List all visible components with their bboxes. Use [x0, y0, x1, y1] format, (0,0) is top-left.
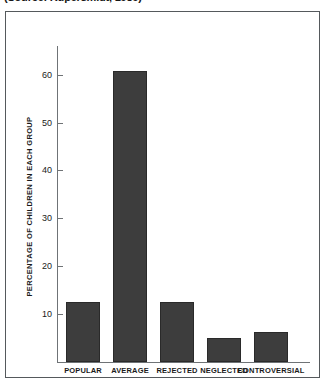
- y-axis-tick: [57, 266, 63, 267]
- y-axis-tick: [57, 170, 63, 171]
- bar: [113, 71, 147, 362]
- y-axis-tick-label: 10: [8, 309, 52, 319]
- y-axis-tick-label: 60: [8, 70, 52, 80]
- x-axis-category-label: CONTROVERSIAL: [231, 366, 311, 375]
- y-axis-tick: [57, 218, 63, 219]
- y-axis-line: [57, 46, 58, 363]
- y-axis-title: PERCENTAGE OF CHILDREN IN EACH GROUP: [25, 117, 34, 297]
- y-axis-tick: [57, 314, 63, 315]
- y-axis-tick: [57, 123, 63, 124]
- bar: [207, 338, 241, 362]
- x-axis-line: [57, 362, 310, 363]
- y-axis-tick: [57, 75, 63, 76]
- bar: [160, 302, 194, 362]
- bar: [66, 302, 100, 362]
- bar-chart: 102030405060 PERCENTAGE OF CHILDREN IN E…: [0, 0, 328, 384]
- bar: [254, 332, 288, 362]
